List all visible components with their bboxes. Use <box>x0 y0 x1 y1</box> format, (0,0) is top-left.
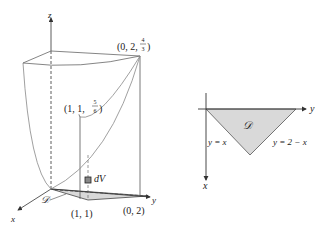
left-3d-figure: z x y (0, 2, 4 3 ) (1, 1, 5 6 ) dV 𝒟 (1,… <box>10 10 156 224</box>
svg-text:3: 3 <box>142 46 145 52</box>
svg-text:): ) <box>99 103 102 115</box>
svg-text:4: 4 <box>142 37 145 43</box>
point-mid-label: (1, 1, <box>64 103 85 115</box>
x-axis-2d-label: x <box>202 180 208 191</box>
volume-element-icon <box>85 177 91 183</box>
y-axis-2d-label: y <box>309 103 315 114</box>
dv-label: dV <box>94 173 107 184</box>
svg-text:6: 6 <box>94 108 97 114</box>
point-top-label: (0, 2, <box>117 41 138 53</box>
svg-text:): ) <box>147 41 150 53</box>
point-base1-label: (1, 1) <box>71 208 93 220</box>
region-d-label: 𝒟 <box>41 194 51 205</box>
point-base2-label: (0, 2) <box>123 205 145 217</box>
edge-y-eq-2-minus-x-label: y = 2 − x <box>272 137 307 147</box>
figure-canvas: z x y (0, 2, 4 3 ) (1, 1, 5 6 ) dV 𝒟 (1,… <box>0 0 325 234</box>
x-axis-label: x <box>10 214 15 224</box>
svg-text:5: 5 <box>94 99 97 105</box>
region-d-2d <box>206 109 296 155</box>
y-axis-label: y <box>151 195 156 205</box>
z-axis-label: z <box>47 10 52 20</box>
right-2d-figure: y x 𝒟 y = x y = 2 − x <box>198 93 315 191</box>
edge-y-eq-x-label: y = x <box>207 137 227 147</box>
